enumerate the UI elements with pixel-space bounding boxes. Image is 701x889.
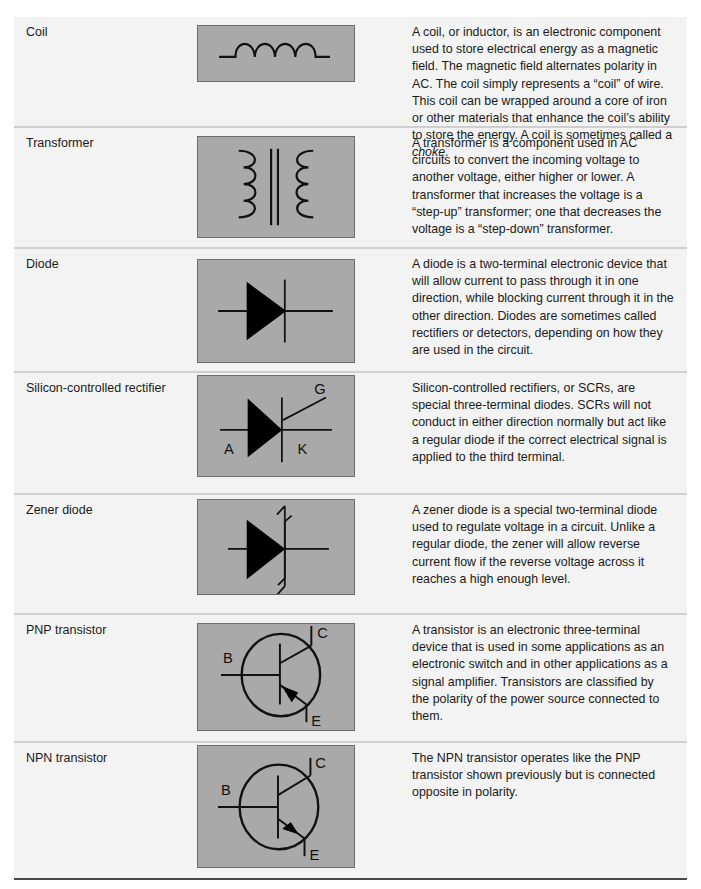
scr-symbol-icon: G A K bbox=[197, 375, 355, 477]
emitter-label: E bbox=[309, 847, 319, 863]
zener-diode-symbol-icon bbox=[197, 499, 355, 595]
component-name: Silicon-controlled rectifier bbox=[26, 380, 166, 396]
collector-label: C bbox=[315, 755, 326, 771]
component-description: Silicon-controlled rectifiers, or SCRs, … bbox=[412, 380, 674, 466]
table-row-transformer: Transformer A transformer is a component… bbox=[14, 128, 687, 249]
component-name: Diode bbox=[26, 256, 59, 272]
component-name: NPN transistor bbox=[26, 750, 107, 766]
component-name: Coil bbox=[26, 24, 48, 40]
diode-symbol-icon bbox=[197, 259, 355, 363]
table-row-pnp-transistor: PNP transistor C B E A transistor is an … bbox=[14, 615, 687, 743]
table-row-npn-transistor: NPN transistor C B E The NPN transistor … bbox=[14, 743, 687, 880]
component-description: A diode is a two-terminal electronic dev… bbox=[412, 256, 674, 359]
component-name: Transformer bbox=[26, 135, 94, 151]
base-label: B bbox=[223, 650, 233, 666]
anode-label: A bbox=[224, 441, 234, 457]
pnp-transistor-symbol-icon: C B E bbox=[197, 623, 355, 731]
coil-symbol-icon bbox=[197, 25, 355, 82]
component-name: Zener diode bbox=[26, 502, 93, 518]
component-description: The NPN transistor operates like the PNP… bbox=[412, 750, 674, 802]
gate-label: G bbox=[314, 381, 325, 397]
table-row-diode: Diode A diode is a two-terminal electron… bbox=[14, 249, 687, 373]
table-row-silicon-controlled-rectifier: Silicon-controlled rectifier G A K Silic… bbox=[14, 373, 687, 495]
component-description: A transformer is a component used in AC … bbox=[412, 135, 674, 238]
transformer-symbol-icon bbox=[197, 136, 355, 238]
npn-transistor-symbol-icon: C B E bbox=[197, 745, 355, 868]
emitter-label: E bbox=[311, 713, 321, 729]
component-description: A zener diode is a special two-terminal … bbox=[412, 502, 674, 588]
component-description: A transistor is an electronic three-term… bbox=[412, 622, 674, 725]
base-label: B bbox=[221, 782, 231, 798]
table-row-coil: Coil A coil, or inductor, is an electron… bbox=[14, 17, 687, 128]
component-symbol-table: Coil A coil, or inductor, is an electron… bbox=[14, 17, 687, 880]
cathode-label: K bbox=[298, 441, 308, 457]
collector-label: C bbox=[317, 625, 328, 641]
component-name: PNP transistor bbox=[26, 622, 106, 638]
table-row-zener-diode: Zener diode A zener diode is a special t… bbox=[14, 495, 687, 615]
